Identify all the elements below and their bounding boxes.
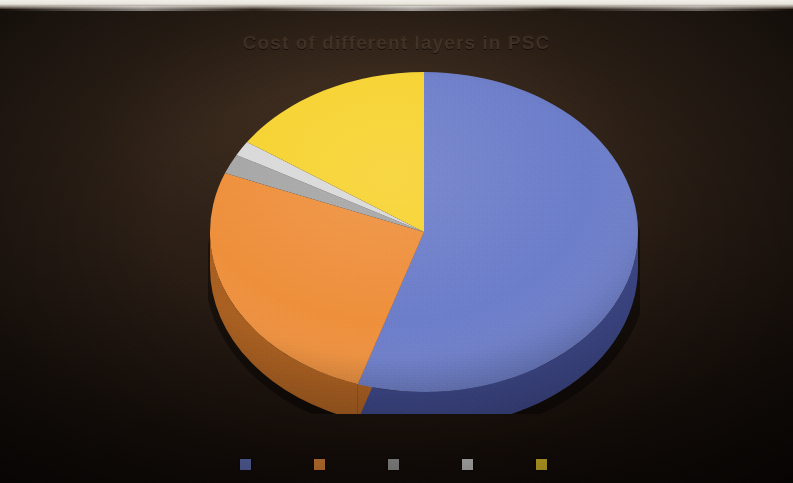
- legend-swatch-icon: [536, 459, 547, 470]
- legend-item[interactable]: [388, 459, 406, 470]
- legend-swatch-icon: [462, 459, 473, 470]
- legend-item[interactable]: [314, 459, 332, 470]
- pie-chart: [208, 64, 640, 414]
- pie-chart-svg: [208, 64, 640, 414]
- legend-item[interactable]: [240, 459, 258, 470]
- page-title: Cost of different layers in PSC: [0, 32, 793, 54]
- legend-item[interactable]: [462, 459, 480, 470]
- photo-top-edge-highlight: [0, 0, 793, 9]
- legend-swatch-icon: [314, 459, 325, 470]
- legend-swatch-icon: [388, 459, 399, 470]
- slide-surface: Cost of different layers in PSC: [0, 8, 793, 483]
- legend-item[interactable]: [536, 459, 554, 470]
- photographed-slide: Cost of different layers in PSC: [0, 0, 793, 483]
- legend-swatch-icon: [240, 459, 251, 470]
- chart-legend: [0, 454, 793, 474]
- pie-top-shading: [210, 72, 638, 392]
